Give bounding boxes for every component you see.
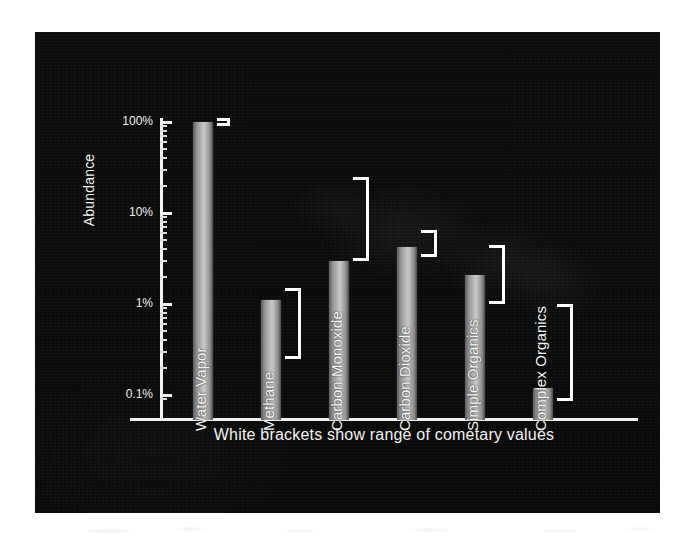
bar[interactable] bbox=[533, 388, 553, 420]
range-bracket bbox=[557, 304, 573, 401]
chart-caption: White brackets show range of cometary va… bbox=[130, 426, 638, 444]
y-axis-line bbox=[160, 118, 163, 420]
y-tick-minor bbox=[160, 317, 167, 319]
y-tick-minor bbox=[160, 276, 167, 278]
y-tick-label: 10% bbox=[35, 206, 153, 218]
y-tick-minor bbox=[160, 216, 167, 218]
y-tick-major bbox=[160, 303, 172, 306]
y-tick-minor bbox=[160, 312, 167, 314]
y-tick-minor bbox=[160, 232, 167, 234]
scan-noise bbox=[0, 513, 689, 541]
y-tick-minor bbox=[160, 260, 167, 262]
y-tick-minor bbox=[160, 169, 167, 171]
y-tick-major bbox=[160, 121, 172, 124]
bar[interactable] bbox=[261, 300, 281, 420]
y-tick-minor bbox=[160, 226, 167, 228]
y-tick-label: 0.1% bbox=[35, 388, 153, 400]
y-tick-minor bbox=[160, 367, 167, 369]
bar[interactable] bbox=[397, 247, 417, 420]
y-tick-label: 100% bbox=[35, 115, 153, 127]
y-tick-minor bbox=[160, 148, 167, 150]
y-axis-title: Abundance bbox=[81, 130, 97, 250]
y-tick-minor bbox=[160, 398, 167, 400]
plot-area: Abundance 100%10%1%0.1% Water VaporMetha… bbox=[35, 32, 660, 513]
y-tick-minor bbox=[160, 185, 167, 187]
range-bracket bbox=[285, 288, 301, 359]
y-tick-major bbox=[160, 394, 172, 397]
range-bracket bbox=[353, 177, 369, 261]
bar[interactable] bbox=[193, 122, 213, 420]
y-tick-minor bbox=[160, 239, 167, 241]
y-tick-minor bbox=[160, 323, 167, 325]
y-tick-minor bbox=[160, 339, 167, 341]
y-tick-minor bbox=[160, 307, 167, 309]
y-tick-minor bbox=[160, 157, 167, 159]
y-tick-minor bbox=[160, 125, 167, 127]
chart-panel: Abundance 100%10%1%0.1% Water VaporMetha… bbox=[35, 32, 660, 513]
y-tick-minor bbox=[160, 141, 167, 143]
range-bracket bbox=[217, 118, 230, 126]
y-tick-label: 1% bbox=[35, 297, 153, 309]
range-bracket bbox=[421, 230, 437, 257]
y-tick-minor bbox=[160, 248, 167, 250]
y-tick-minor bbox=[160, 351, 167, 353]
y-tick-minor bbox=[160, 330, 167, 332]
range-bracket bbox=[489, 245, 505, 304]
y-tick-minor bbox=[160, 130, 167, 132]
y-tick-major bbox=[160, 212, 172, 215]
y-tick-minor bbox=[160, 221, 167, 223]
bar[interactable] bbox=[465, 275, 485, 420]
bar[interactable] bbox=[329, 261, 349, 420]
y-tick-minor bbox=[160, 135, 167, 137]
